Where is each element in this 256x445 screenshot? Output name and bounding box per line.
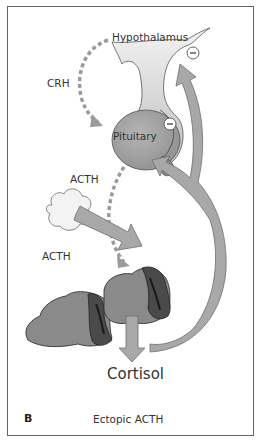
pituitary-label: Pituitary xyxy=(113,130,157,142)
acth-pituitary-label: ACTH xyxy=(70,173,99,185)
crh-dashed-arrow xyxy=(80,40,108,127)
cortisol-label: Cortisol xyxy=(107,365,164,383)
inhibition-marker-hypothalamus xyxy=(187,47,199,59)
figure-caption: Ectopic ACTH xyxy=(93,413,163,425)
adrenal-glands xyxy=(26,267,170,347)
ectopic-acth-arrow xyxy=(74,206,142,250)
panel-letter: B xyxy=(24,412,32,425)
hypothalamus-label: Hypothalamus xyxy=(112,31,188,43)
crh-label: CRH xyxy=(47,77,70,89)
inhibition-marker-pituitary xyxy=(164,118,176,130)
acth-ectopic-label: ACTH xyxy=(42,250,71,262)
acth-dashed-arrow xyxy=(109,167,130,268)
